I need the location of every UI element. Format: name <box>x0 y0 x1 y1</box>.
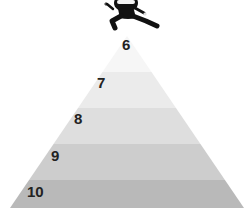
level-label-9: 9 <box>51 148 59 163</box>
ninja-icon <box>100 0 162 32</box>
level-label-8: 8 <box>74 111 82 126</box>
level-label-10: 10 <box>27 184 44 199</box>
pyramid-level-7 <box>78 72 176 108</box>
level-label-6: 6 <box>122 37 130 52</box>
pyramid-level-10 <box>10 180 244 208</box>
level-label-7: 7 <box>97 75 105 90</box>
